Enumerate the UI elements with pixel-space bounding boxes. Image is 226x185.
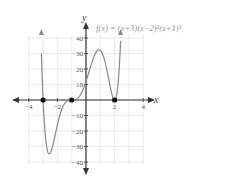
y-axis-label: y <box>81 12 87 23</box>
svg-text:−40: −40 <box>72 159 83 167</box>
x-axis-label: x <box>153 94 159 105</box>
function-label: f(x) = (x+3)(x−2)²(x+1)³ <box>96 23 182 33</box>
svg-text:−30: −30 <box>72 143 83 151</box>
svg-text:40: 40 <box>76 35 84 43</box>
svg-text:−20: −20 <box>72 128 83 136</box>
svg-text:−2: −2 <box>54 103 62 111</box>
svg-text:4: 4 <box>141 103 145 111</box>
svg-text:−10: −10 <box>72 112 83 120</box>
axes <box>12 22 155 175</box>
svg-text:30: 30 <box>76 50 84 58</box>
svg-text:20: 20 <box>76 66 84 74</box>
zero-point <box>112 97 117 102</box>
svg-text:2: 2 <box>113 103 117 111</box>
svg-text:−4: −4 <box>25 103 33 111</box>
zero-point <box>69 97 74 102</box>
polynomial-graph: −4−22440302010−10−20−30−40 x y f(x) = (x… <box>0 0 226 185</box>
svg-text:10: 10 <box>76 81 84 89</box>
zero-point <box>41 97 46 102</box>
